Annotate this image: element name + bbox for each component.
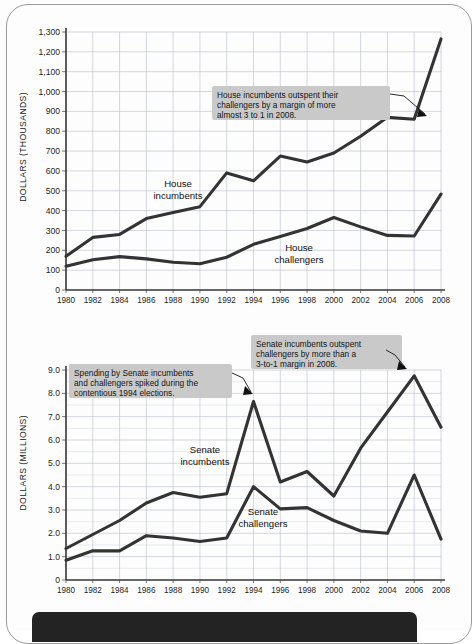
svg-text:challengers: challengers [238,518,287,529]
svg-text:8.0: 8.0 [48,388,60,398]
svg-text:3.0: 3.0 [48,505,60,515]
svg-text:1982: 1982 [84,296,103,305]
svg-text:1992: 1992 [218,296,237,305]
svg-text:1990: 1990 [191,586,210,595]
house-chart-canvas: 01002003004005006007008009001,0001,1001,… [0,10,469,315]
svg-text:4.0: 4.0 [48,482,60,492]
svg-text:300: 300 [46,226,61,236]
svg-text:1988: 1988 [164,586,183,595]
svg-text:600: 600 [46,166,61,176]
svg-text:contentious 1994 elections.: contentious 1994 elections. [74,388,175,398]
senate-y-axis-title: DOLLARS (MILLIONS) [18,415,28,511]
svg-text:1984: 1984 [110,296,129,305]
svg-text:challengers: challengers [274,254,323,265]
senate-callout-right: Senate incumbents outspentchallengers by… [251,335,407,370]
svg-text:1.0: 1.0 [48,552,60,562]
svg-text:House incumbents outspent thei: House incumbents outspent their [217,90,339,100]
svg-text:2004: 2004 [378,586,397,595]
house-spending-chart: DOLLARS (THOUSANDS) 01002003004005006007… [0,10,469,315]
svg-text:1980: 1980 [57,296,76,305]
svg-text:700: 700 [46,146,61,156]
svg-text:2008: 2008 [432,586,451,595]
svg-text:2006: 2006 [405,586,424,595]
svg-text:2008: 2008 [432,296,451,305]
svg-text:1998: 1998 [298,586,317,595]
svg-text:3-to-1 margin in 2008.: 3-to-1 margin in 2008. [256,359,337,369]
senate-chart-canvas: 01.02.03.04.05.06.07.08.09.0198019821984… [0,330,469,605]
svg-text:almost 3 to 1 in 2008.: almost 3 to 1 in 2008. [217,110,296,120]
svg-text:1,100: 1,100 [38,67,60,77]
svg-text:6.0: 6.0 [48,435,60,445]
house-callout: House incumbents outspent theirchallenge… [212,86,427,120]
svg-text:1982: 1982 [84,586,103,595]
svg-text:9.0: 9.0 [48,365,60,375]
svg-text:1996: 1996 [271,296,290,305]
svg-text:Senate: Senate [248,506,278,517]
svg-text:800: 800 [46,126,61,136]
svg-text:1984: 1984 [110,586,129,595]
svg-text:incumbents: incumbents [153,190,202,201]
svg-text:0: 0 [55,285,60,295]
svg-text:1994: 1994 [244,586,263,595]
svg-text:100: 100 [46,265,61,275]
svg-text:1988: 1988 [164,296,183,305]
svg-text:1992: 1992 [218,586,237,595]
svg-text:1994: 1994 [244,296,263,305]
svg-text:0: 0 [55,575,60,585]
senate-spending-chart: DOLLARS (MILLIONS) 01.02.03.04.05.06.07.… [0,330,469,600]
svg-text:incumbents: incumbents [180,456,229,467]
house-incumbents-series-label: Houseincumbents [153,178,202,201]
senate-incumbents-series-label: Senateincumbents [180,444,229,467]
svg-text:1,300: 1,300 [38,27,60,37]
svg-text:7.0: 7.0 [48,412,60,422]
svg-text:1986: 1986 [137,296,156,305]
svg-text:House: House [285,242,313,253]
house-challengers-series-label: Housechallengers [274,242,323,265]
svg-text:500: 500 [46,186,61,196]
svg-text:2004: 2004 [378,296,397,305]
svg-text:400: 400 [46,206,61,216]
svg-text:1996: 1996 [271,586,290,595]
svg-text:200: 200 [46,245,61,255]
caption-banner [32,612,417,642]
svg-text:1,000: 1,000 [38,87,60,97]
svg-text:2002: 2002 [352,296,371,305]
svg-text:2000: 2000 [325,296,344,305]
svg-text:1990: 1990 [191,296,210,305]
svg-text:and challengers spiked during: and challengers spiked during the [74,378,198,388]
svg-text:Senate incumbents outspent: Senate incumbents outspent [256,339,362,349]
svg-text:5.0: 5.0 [48,458,60,468]
svg-text:challengers by more than a: challengers by more than a [256,349,356,359]
svg-text:Spending by Senate incumbents: Spending by Senate incumbents [74,368,193,378]
svg-text:900: 900 [46,106,61,116]
svg-text:1986: 1986 [137,586,156,595]
svg-text:1980: 1980 [57,586,76,595]
svg-text:2006: 2006 [405,296,424,305]
svg-text:1,200: 1,200 [38,47,60,57]
svg-text:Senate: Senate [190,444,220,455]
svg-text:2.0: 2.0 [48,528,60,538]
svg-text:1998: 1998 [298,296,317,305]
svg-text:challengers by a margin of mor: challengers by a margin of more [217,100,336,110]
senate-callout-left: Spending by Senate incumbentsand challen… [69,364,253,398]
svg-text:2002: 2002 [352,586,371,595]
svg-text:House: House [164,178,192,189]
svg-text:2000: 2000 [325,586,344,595]
house-y-axis-title: DOLLARS (THOUSANDS) [18,92,28,202]
